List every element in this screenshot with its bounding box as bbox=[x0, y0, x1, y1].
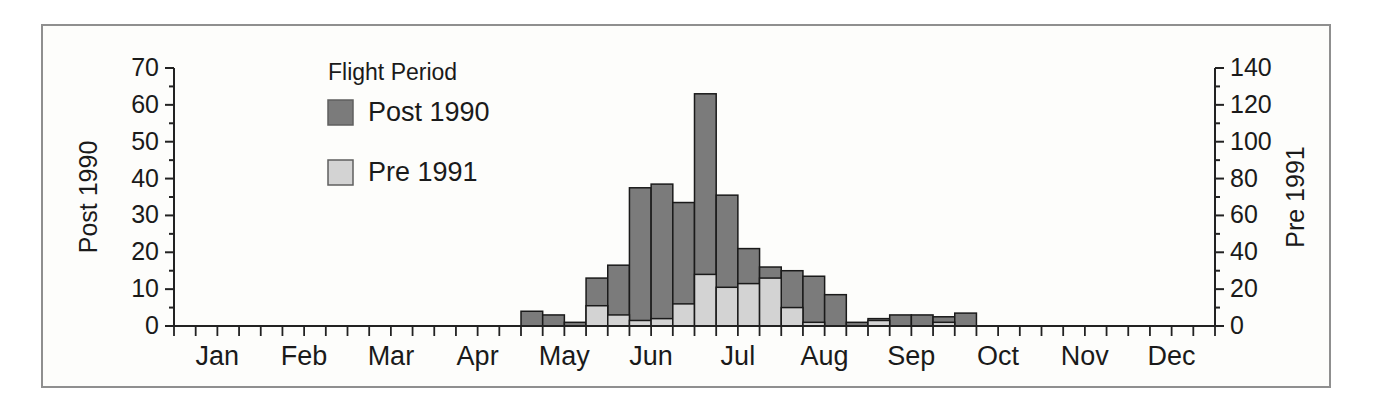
bar-post bbox=[629, 188, 651, 326]
right-tick-label: 40 bbox=[1230, 237, 1258, 265]
bar-post bbox=[651, 184, 673, 326]
y-axis-right: 020406080100120140 bbox=[1215, 53, 1272, 339]
bar-pre bbox=[695, 274, 717, 326]
left-tick-label: 0 bbox=[145, 311, 159, 339]
legend-label: Pre 1991 bbox=[368, 157, 478, 187]
left-tick-label: 30 bbox=[131, 200, 159, 228]
bar-post bbox=[890, 315, 912, 326]
right-axis-title: Pre 1991 bbox=[1281, 146, 1309, 247]
bar-pre bbox=[586, 306, 608, 326]
figure-border: 010203040506070020406080100120140JanFebM… bbox=[41, 24, 1331, 388]
left-tick-label: 70 bbox=[131, 53, 159, 81]
right-tick-label: 120 bbox=[1230, 90, 1272, 118]
left-tick-label: 50 bbox=[131, 127, 159, 155]
legend: Flight PeriodPost 1990Pre 1991 bbox=[328, 59, 490, 187]
legend-swatch-post-1990 bbox=[328, 100, 353, 125]
bar-post bbox=[825, 295, 847, 326]
month-label: Jun bbox=[629, 341, 673, 371]
month-label: Aug bbox=[801, 341, 849, 371]
bar-pre bbox=[651, 319, 673, 326]
bar-pre bbox=[760, 278, 782, 326]
month-label: May bbox=[539, 341, 591, 371]
right-tick-label: 0 bbox=[1230, 311, 1244, 339]
y-axis-left: 010203040506070 bbox=[131, 53, 174, 339]
month-label: Jan bbox=[196, 341, 240, 371]
bar-pre bbox=[608, 315, 630, 326]
month-label: Nov bbox=[1061, 341, 1110, 371]
month-label: Jul bbox=[721, 341, 756, 371]
scanned-chart-page: { "figure": { "legend_title": "Flight Pe… bbox=[0, 0, 1380, 403]
bar-post bbox=[521, 311, 543, 326]
left-tick-label: 20 bbox=[131, 237, 159, 265]
bar-post bbox=[911, 315, 933, 326]
legend-label: Post 1990 bbox=[368, 97, 490, 127]
legend-title: Flight Period bbox=[328, 59, 457, 85]
bar-pre bbox=[716, 287, 738, 326]
x-axis: JanFebMarAprMayJunJulAugSepOctNovDec bbox=[174, 326, 1215, 371]
left-tick-label: 40 bbox=[131, 164, 159, 192]
bar-pre bbox=[673, 304, 695, 326]
legend-swatch-pre-1991 bbox=[328, 160, 353, 185]
flight-period-histogram: 010203040506070020406080100120140JanFebM… bbox=[2, 2, 1380, 403]
left-axis-title: Post 1990 bbox=[74, 141, 102, 254]
bar-post bbox=[955, 313, 977, 326]
right-tick-label: 140 bbox=[1230, 53, 1272, 81]
right-tick-label: 100 bbox=[1230, 127, 1272, 155]
month-label: Mar bbox=[368, 341, 415, 371]
month-label: Sep bbox=[887, 341, 935, 371]
bar-pre bbox=[738, 284, 760, 326]
month-label: Dec bbox=[1148, 341, 1196, 371]
bar-pre bbox=[781, 308, 803, 326]
bar-post bbox=[543, 315, 565, 326]
month-label: Oct bbox=[977, 341, 1020, 371]
bar-post bbox=[803, 276, 825, 326]
right-tick-label: 60 bbox=[1230, 200, 1258, 228]
month-label: Feb bbox=[281, 341, 328, 371]
right-tick-label: 20 bbox=[1230, 274, 1258, 302]
right-tick-label: 80 bbox=[1230, 164, 1258, 192]
month-label: Apr bbox=[457, 341, 499, 371]
left-tick-label: 10 bbox=[131, 274, 159, 302]
left-tick-label: 60 bbox=[131, 90, 159, 118]
